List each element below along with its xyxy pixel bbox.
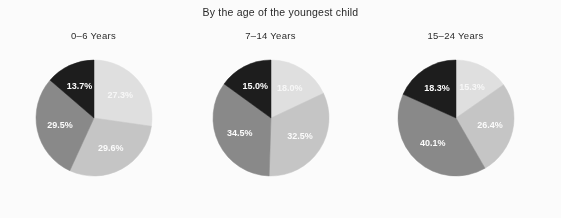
pie-panel-0-6-years: 0–6 Years 27.3%29.6%29.5%13.7%	[0, 30, 187, 218]
pie-slice-label: 34.5%	[226, 128, 252, 138]
pie-panel-15-24-years: 15–24 Years 15.3%26.4%40.1%18.3%	[362, 30, 549, 218]
panel-title: 0–6 Years	[0, 30, 187, 41]
panel-title: 7–14 Years	[177, 30, 364, 41]
pie-slice-label: 29.6%	[97, 143, 123, 153]
pie-chart-svg: 18.0%32.5%34.5%15.0%	[201, 48, 341, 188]
pie-chart-svg: 15.3%26.4%40.1%18.3%	[386, 48, 526, 188]
pie-panel-group: 0–6 Years 27.3%29.6%29.5%13.7% 7–14 Year…	[0, 30, 561, 218]
pie-slice-label: 26.4%	[477, 120, 503, 130]
pie-slice-label: 32.5%	[287, 131, 313, 141]
pie-slice-label: 13.7%	[66, 81, 92, 91]
pie-chart-figure: By the age of the youngest child 0–6 Yea…	[0, 0, 561, 218]
pie-slice-label: 29.5%	[47, 120, 73, 130]
pie-slice-label: 18.0%	[276, 83, 302, 93]
pie-container: 15.3%26.4%40.1%18.3%	[362, 48, 549, 218]
figure-title: By the age of the youngest child	[0, 6, 561, 18]
pie-slice-label: 40.1%	[419, 138, 445, 148]
pie-slice-label: 27.3%	[107, 90, 133, 100]
pie-panel-7-14-years: 7–14 Years 18.0%32.5%34.5%15.0%	[177, 30, 364, 218]
pie-container: 27.3%29.6%29.5%13.7%	[0, 48, 187, 218]
pie-slice-label: 15.0%	[242, 81, 268, 91]
pie-container: 18.0%32.5%34.5%15.0%	[177, 48, 364, 218]
panel-title: 15–24 Years	[362, 30, 549, 41]
pie-slice-label: 15.3%	[459, 82, 485, 92]
pie-slice-label: 18.3%	[424, 83, 450, 93]
pie-chart-svg: 27.3%29.6%29.5%13.7%	[24, 48, 164, 188]
